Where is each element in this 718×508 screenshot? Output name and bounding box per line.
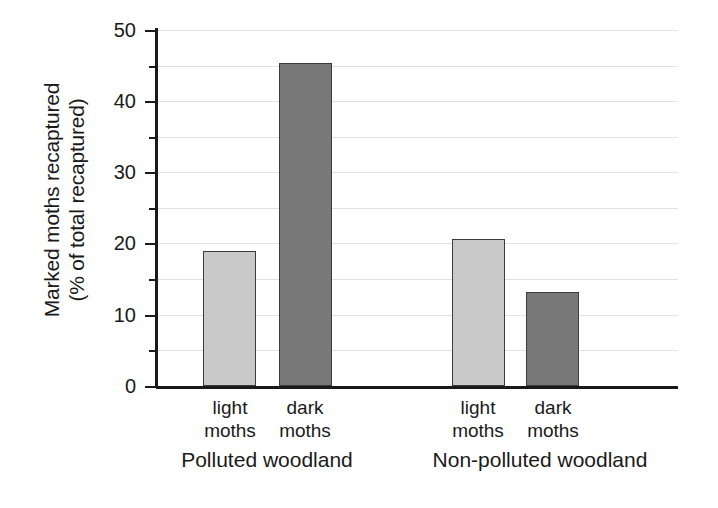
bar-label-line-1: dark [503,396,603,419]
group-label-polluted-woodland: Polluted woodland [152,448,382,472]
bar-polluted-dark-moths [279,63,332,386]
y-tick-5 [149,350,158,352]
bar-nonpolluted-dark-moths [526,292,579,386]
y-tick-label-0: 0 [76,376,136,396]
y-tick-35 [149,137,158,139]
y-tick-40 [145,101,158,103]
y-tick-45 [149,66,158,68]
y-axis-tick-labels: 50 40 30 20 10 0 [70,0,136,508]
y-tick-15 [149,279,158,281]
bar-chart-figure: Marked moths recaptured (% of total reca… [0,0,718,508]
y-tick-0 [145,386,158,388]
y-tick-label-50: 50 [76,20,136,40]
y-axis-title-line-1: Marked moths recaptured [39,83,64,318]
bars-layer [158,30,678,386]
bar-label-line-2: moths [255,419,355,442]
y-tick-25 [149,208,158,210]
y-tick-30 [145,172,158,174]
x-axis-line [156,386,678,389]
y-tick-50 [145,30,158,32]
y-axis-ticks [140,0,158,508]
y-tick-label-10: 10 [76,305,136,325]
bar-nonpolluted-light-moths [452,239,505,386]
y-tick-label-20: 20 [76,233,136,253]
bar-label-line-2: moths [503,419,603,442]
y-tick-label-40: 40 [76,91,136,111]
bar-label-polluted-dark-moths: dark moths [255,396,355,442]
y-tick-20 [145,243,158,245]
y-tick-label-30: 30 [76,162,136,182]
y-tick-10 [145,315,158,317]
bar-label-nonpolluted-dark-moths: dark moths [503,396,603,442]
bar-label-line-1: dark [255,396,355,419]
bar-polluted-light-moths [203,251,256,386]
group-label-non-polluted-woodland: Non-polluted woodland [400,448,680,472]
